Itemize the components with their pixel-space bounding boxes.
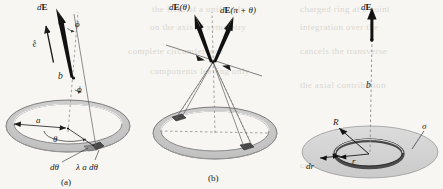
panel-a-angle-phi-top-arc <box>68 29 75 32</box>
panel-c-radius-R-label: R <box>332 117 339 127</box>
panel-b-dE-theta-label: dE(θ) <box>169 2 190 12</box>
panel-b: dE(θ) dE(π + θ) (b) <box>153 2 277 183</box>
panel-a-radius-label: a <box>36 115 41 125</box>
panel-c-dE-vector <box>367 8 376 41</box>
panel-a-caption: (a) <box>61 177 71 187</box>
physics-figure: dE ê ϕ ϕ b a θ dθ λ a dθ (a) <box>0 0 443 189</box>
panel-b-caption: (b) <box>208 173 219 183</box>
panel-a-charge-element-label: λ a dθ <box>75 162 98 172</box>
panel-a: dE ê ϕ ϕ b a θ dθ λ a dθ (a) <box>6 2 130 187</box>
panel-c-height-label: b <box>366 80 371 90</box>
panel-c-dE-label: dE <box>361 2 372 12</box>
panel-a-ring <box>6 100 130 152</box>
panel-a-phi-bottom-label: ϕ <box>77 84 82 94</box>
panel-c: dE b R σ dr r <box>302 2 438 178</box>
panel-c-dr-label: dr <box>306 161 315 171</box>
panel-b-dE-pi-theta-label: dE(π + θ) <box>220 5 256 15</box>
panel-a-height-label: b <box>58 71 63 81</box>
panel-a-phi-top-label: ϕ <box>75 19 80 29</box>
panel-a-charge-leader <box>95 150 99 160</box>
panel-c-sigma-label: σ <box>422 121 427 131</box>
panel-a-unit-vector-label: ê <box>31 38 37 49</box>
panel-a-unit-vector-arrow <box>46 26 54 63</box>
panel-a-theta-label: θ <box>53 134 58 144</box>
panel-a-dtheta-label: dθ <box>50 162 60 172</box>
panel-b-dE-pi-theta-vector <box>213 17 233 63</box>
panel-c-ring-radius-label: r <box>352 156 356 166</box>
panel-a-dE-label: dE <box>37 2 48 12</box>
panel-a-dE-vector <box>56 9 73 78</box>
